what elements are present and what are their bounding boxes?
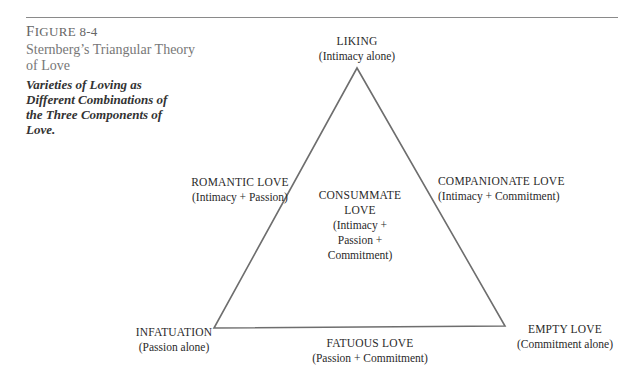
vertex-infatuation: INFATUATION (Passion alone) (124, 325, 224, 355)
center-line-4: Passion + (310, 233, 410, 248)
vertex-empty-love: EMPTY LOVE (Commitment alone) (505, 322, 625, 352)
vertex-empty-name: EMPTY LOVE (505, 322, 625, 337)
edge-companionate-sub: (Intimacy + Commitment) (438, 189, 588, 204)
center-line-3: (Intimacy + (310, 218, 410, 233)
edge-romantic-love: ROMANTIC LOVE (Intimacy + Passion) (180, 175, 300, 205)
edge-romantic-name: ROMANTIC LOVE (180, 175, 300, 190)
center-line-5: Commitment) (310, 248, 410, 263)
edge-companionate-love: COMPANIONATE LOVE (Intimacy + Commitment… (438, 174, 588, 204)
edge-romantic-sub: (Intimacy + Passion) (180, 190, 300, 205)
center-line-1: CONSUMMATE (310, 188, 410, 203)
center-consummate-love: CONSUMMATE LOVE (Intimacy + Passion + Co… (310, 188, 410, 263)
center-line-2: LOVE (310, 203, 410, 218)
vertex-infatuation-name: INFATUATION (124, 325, 224, 340)
edge-fatuous-love: FATUOUS LOVE (Passion + Commitment) (300, 336, 440, 366)
vertex-liking: LIKING (Intimacy alone) (307, 34, 407, 64)
vertex-liking-sub: (Intimacy alone) (307, 49, 407, 64)
edge-fatuous-name: FATUOUS LOVE (300, 336, 440, 351)
vertex-empty-sub: (Commitment alone) (505, 337, 625, 352)
vertex-liking-name: LIKING (307, 34, 407, 49)
edge-fatuous-sub: (Passion + Commitment) (300, 351, 440, 366)
edge-companionate-name: COMPANIONATE LOVE (438, 174, 588, 189)
vertex-infatuation-sub: (Passion alone) (124, 340, 224, 355)
